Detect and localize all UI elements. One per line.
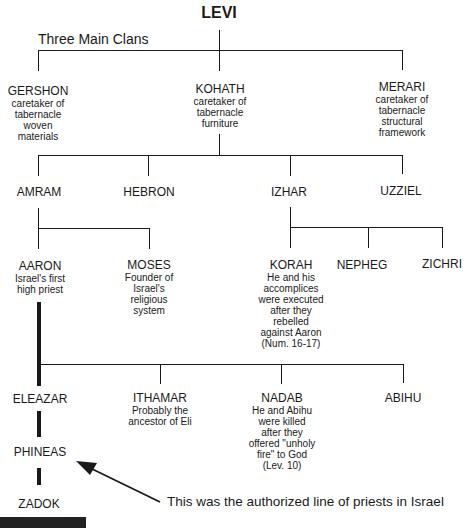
node-moses: MOSES Founder of Israel's religious syst… [125,258,173,316]
node-gershon: GERSHON caretaker of tabernacle woven ma… [8,84,69,142]
arrow-icon [76,461,160,502]
root-title: LEVI [201,4,237,21]
node-korah: KORAH He and his accomplices were execut… [258,258,323,349]
node-uzziel: UZZIEL [380,184,421,198]
node-zichri: ZICHRI [422,257,462,271]
node-ithamar: ITHAMAR Probably the ancestor of Eli [128,391,191,427]
cropped-caption-bar [0,517,86,528]
node-eleazar: ELEAZAR [13,392,68,406]
annotation-authorized-line: This was the authorized line of priests … [167,494,444,509]
node-nepheg: NEPHEG [337,258,388,272]
node-kohath: KOHATH caretaker of tabernacle furniture [194,82,247,129]
section-label-three-main-clans: Three Main Clans [38,31,149,47]
node-aaron: AARON Israel's first high priest [15,259,65,295]
node-izhar: IZHAR [271,185,307,199]
node-abihu: ABIHU [385,391,422,405]
node-amram: AMRAM [17,185,62,199]
node-phineas: PHINEAS [14,445,67,459]
node-zadok: ZADOK [18,497,59,511]
node-nadab: NADAB He and Abihu were killed after the… [249,391,316,471]
node-merari: MERARI caretaker of tabernacle structura… [376,80,429,138]
levi-family-tree-diagram: LEVI Three Main Clans GERSHON caretaker … [0,0,466,528]
node-hebron: HEBRON [123,185,174,199]
node-levi: LEVI [201,4,237,22]
